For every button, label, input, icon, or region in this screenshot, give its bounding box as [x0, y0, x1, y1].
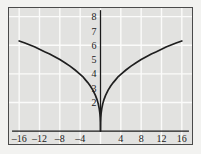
y-tick-label: 8	[92, 11, 97, 22]
x-tick-label: 4	[118, 133, 123, 144]
y-axis-tick-labels: 2345678	[92, 11, 97, 108]
plot-frame: –16–12–8–4481216 2345678	[8, 7, 193, 145]
x-tick-label: 8	[139, 133, 144, 144]
x-tick-label: –8	[54, 133, 65, 144]
y-tick-label: 3	[92, 83, 97, 94]
x-tick-label: 16	[177, 133, 187, 144]
y-tick-label: 5	[92, 54, 97, 65]
y-tick-label: 2	[92, 97, 97, 108]
x-tick-label: –4	[74, 133, 85, 144]
y-tick-label: 7	[92, 26, 97, 37]
x-tick-label: –12	[31, 133, 47, 144]
x-tick-label: –16	[11, 133, 27, 144]
graph-canvas: –16–12–8–4481216 2345678	[9, 8, 192, 144]
x-tick-label: 12	[157, 133, 167, 144]
x-axis-tick-labels: –16–12–8–4481216	[11, 133, 187, 144]
y-tick-label: 6	[92, 40, 97, 51]
y-tick-label: 4	[92, 68, 97, 79]
figure-container: –16–12–8–4481216 2345678	[0, 0, 201, 154]
